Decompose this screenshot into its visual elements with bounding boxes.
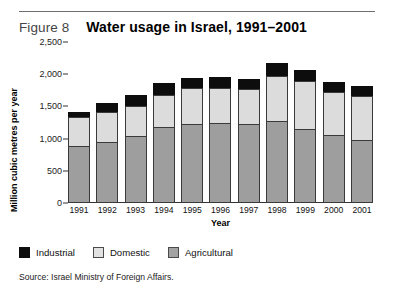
y-axis-tick-label: 2,500	[39, 37, 62, 47]
bar-segment-agricultural	[68, 146, 90, 203]
bar-stack	[181, 78, 203, 203]
bar-segment-agricultural	[238, 124, 260, 203]
legend-item: Industrial	[19, 247, 84, 258]
chart-plot-area: Million cubic metres per year 2,5002,000…	[0, 42, 394, 232]
bar-segment-domestic	[294, 81, 316, 129]
x-axis-tick-label: 2001	[351, 205, 373, 215]
chart-legend: IndustrialDomesticAgricultural	[19, 247, 242, 258]
y-axis-tick-label: 1,000	[39, 134, 62, 144]
bar-stack	[323, 82, 345, 203]
bar-segment-domestic	[68, 117, 90, 147]
figure-card: Figure 8 Water usage in Israel, 1991–200…	[0, 0, 394, 301]
y-axis-tick-mark	[63, 203, 68, 204]
bar-segment-agricultural	[294, 129, 316, 203]
bar-segment-industrial	[153, 83, 175, 95]
x-axis-tick-label: 1991	[68, 205, 90, 215]
x-axis-tick-label: 1995	[181, 205, 203, 215]
bar-segment-domestic	[351, 96, 373, 140]
bar-segment-agricultural	[209, 123, 231, 203]
y-axis-tick-mark	[63, 42, 68, 43]
y-axis-tick-mark	[63, 106, 68, 107]
bar-segment-domestic	[153, 95, 175, 127]
y-axis-title-text: Million cubic metres per year	[9, 88, 19, 212]
bar-stack	[238, 79, 260, 203]
bar-segment-domestic	[181, 88, 203, 124]
x-axis-tick-label: 1999	[294, 205, 316, 215]
legend-item: Domestic	[93, 247, 159, 258]
x-axis-tick-label: 1997	[238, 205, 260, 215]
bar-segment-agricultural	[181, 124, 203, 203]
bar-segment-industrial	[238, 79, 260, 89]
y-axis-tick-label: 2,000	[39, 69, 62, 79]
legend-swatch-industrial	[19, 247, 30, 258]
x-axis-tick-labels: 1991199219931994199519961997199819992000…	[68, 205, 373, 215]
x-axis-title: Year	[68, 218, 373, 228]
bar-stack	[209, 77, 231, 203]
y-axis-tick-mark	[63, 138, 68, 139]
bar-segment-domestic	[238, 89, 260, 124]
bar-segment-agricultural	[153, 127, 175, 203]
x-axis-tick-label: 1994	[153, 205, 175, 215]
bar-segment-industrial	[209, 77, 231, 87]
bar-stack	[294, 70, 316, 203]
legend-swatch-agricultural	[168, 247, 179, 258]
y-axis-ticks: 2,5002,0001,5001,0005000	[24, 42, 62, 232]
y-axis-tick-mark	[63, 74, 68, 75]
y-axis-tick-label: 500	[47, 166, 62, 176]
y-axis-tick-label: 1,500	[39, 101, 62, 111]
bar-segment-industrial	[96, 103, 118, 112]
bar-segment-agricultural	[125, 136, 147, 203]
bar-segment-industrial	[351, 86, 373, 96]
figure-header: Figure 8 Water usage in Israel, 1991–200…	[19, 16, 375, 38]
x-axis-tick-label: 2000	[323, 205, 345, 215]
y-axis-tick-label: 0	[57, 198, 62, 208]
bar-stack	[68, 112, 90, 203]
bar-segment-industrial	[294, 70, 316, 80]
bar-segment-domestic	[323, 92, 345, 136]
bar-segment-domestic	[96, 112, 118, 142]
x-axis-tick-label: 1993	[125, 205, 147, 215]
y-axis-tick-mark	[63, 170, 68, 171]
bar-stack	[153, 83, 175, 203]
bar-stack	[351, 86, 373, 203]
top-divider	[19, 11, 375, 12]
legend-item: Agricultural	[168, 247, 242, 258]
bar-segment-agricultural	[266, 121, 288, 203]
bar-stack	[125, 95, 147, 203]
x-axis-tick-label: 1996	[209, 205, 231, 215]
bar-segment-industrial	[266, 63, 288, 75]
figure-number: Figure 8	[19, 20, 69, 35]
bar-segment-domestic	[125, 106, 147, 136]
axis-area	[68, 42, 373, 232]
legend-swatch-domestic	[93, 247, 104, 258]
bar-stack	[96, 103, 118, 203]
legend-label: Domestic	[110, 247, 150, 258]
bar-segment-agricultural	[96, 142, 118, 203]
figure-source: Source: Israel Ministry of Foreign Affai…	[19, 272, 174, 282]
x-axis-tick-label: 1998	[266, 205, 288, 215]
bar-segment-agricultural	[323, 135, 345, 203]
bar-segment-domestic	[209, 88, 231, 123]
bar-segment-industrial	[323, 82, 345, 92]
bar-stack	[266, 63, 288, 203]
y-axis-title: Million cubic metres per year	[7, 90, 21, 210]
bar-segment-industrial	[181, 78, 203, 88]
x-axis-tick-label: 1992	[96, 205, 118, 215]
figure-title: Water usage in Israel, 1991–2001	[86, 19, 307, 35]
legend-label: Industrial	[36, 247, 75, 258]
bar-segment-domestic	[266, 76, 288, 121]
legend-label: Agricultural	[185, 247, 233, 258]
bar-segment-agricultural	[351, 140, 373, 203]
bar-group	[68, 42, 373, 203]
bar-segment-industrial	[125, 95, 147, 105]
